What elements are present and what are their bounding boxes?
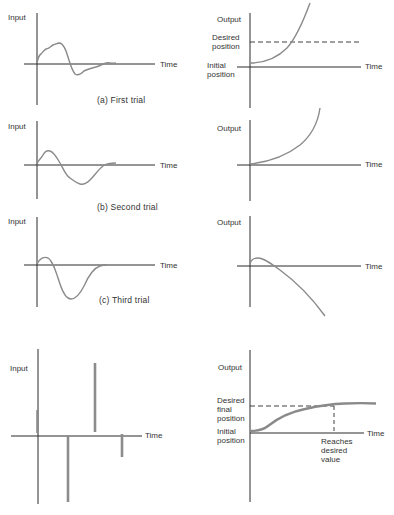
first-input-xlabel: Time — [160, 60, 177, 69]
second-input-xlabel: Time — [160, 161, 177, 170]
final-desired-label-3: position — [217, 414, 245, 423]
final-initial-label-1: Initial — [217, 427, 236, 436]
output-curve — [250, 403, 376, 431]
third-input-ylabel: Input — [8, 217, 26, 226]
second-input-ylabel: Input — [8, 122, 26, 131]
input-curve — [37, 43, 116, 75]
input-curve — [37, 257, 107, 299]
third-trial-output-plot — [237, 216, 361, 316]
first-output-ylabel: Output — [217, 15, 241, 24]
first-trial-input-plot — [24, 13, 155, 105]
final-output-plot — [250, 350, 376, 502]
third-output-xlabel: Time — [365, 262, 382, 271]
output-curve — [250, 108, 320, 164]
first-initial-label-1: Initial — [207, 61, 226, 70]
third-input-xlabel: Time — [160, 261, 177, 270]
final-input-xlabel: Time — [145, 431, 162, 440]
first-input-ylabel: Input — [8, 13, 26, 22]
input-curve — [37, 151, 116, 185]
reaches-label-2: desired — [321, 446, 347, 455]
first-output-xlabel: Time — [365, 62, 382, 71]
first-desired-label-2: position — [212, 42, 240, 51]
output-curve — [250, 3, 310, 63]
third-trial-caption: (c) Third trial — [99, 295, 150, 305]
first-desired-label-1: Desired — [212, 33, 240, 42]
final-desired-label-1: Desired — [217, 396, 245, 405]
third-trial-input-plot — [24, 217, 155, 307]
final-output-ylabel: Output — [218, 363, 242, 372]
third-output-ylabel: Output — [217, 218, 241, 227]
reaches-label-3: value — [321, 455, 340, 464]
final-input-ylabel: Input — [10, 364, 28, 373]
first-trial-output-plot — [237, 3, 361, 108]
second-trial-output-plot — [237, 108, 361, 201]
second-trial-input-plot — [24, 121, 155, 199]
final-input-plot — [11, 349, 142, 504]
final-output-xlabel: Time — [367, 429, 384, 438]
final-initial-label-2: position — [217, 436, 245, 445]
first-initial-label-2: position — [207, 70, 235, 79]
first-trial-caption: (a) First trial — [97, 95, 145, 105]
second-output-ylabel: Output — [217, 124, 241, 133]
final-desired-label-2: final — [217, 405, 232, 414]
reaches-label-1: Reaches — [321, 437, 353, 446]
second-output-xlabel: Time — [365, 160, 382, 169]
output-curve — [250, 258, 325, 316]
second-trial-caption: (b) Second trial — [97, 202, 158, 212]
